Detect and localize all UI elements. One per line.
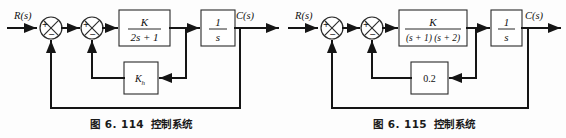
caption-title: 控制系统 (151, 118, 193, 130)
figure-6-114: R(s) + − + − (0, 0, 283, 138)
sum1-bottom-sign: − (329, 30, 336, 39)
summing-junction-2: + − (361, 17, 383, 39)
input-label: R(s) (294, 10, 313, 22)
integrator-denominator: s (216, 31, 220, 43)
figure-caption-6-115: 图 6. 115控制系统 (283, 116, 566, 131)
summing-junction-1: + − (40, 17, 62, 39)
block-diagram-6-115: R(s) + − + − (283, 0, 566, 118)
figure-6-115: R(s) + − + − (283, 0, 566, 138)
summing-junction-2: + − (81, 17, 103, 39)
sum2-left-sign: + (83, 20, 90, 29)
sum2-left-sign: + (363, 20, 370, 29)
feedback-gain-block[interactable]: Kh (124, 62, 158, 94)
integrator-numerator: 1 (504, 16, 510, 28)
summing-junction-1: + − (321, 17, 343, 39)
integrator-block[interactable]: 1 s (201, 10, 235, 46)
sum1-left-sign: + (323, 20, 330, 29)
forward-numerator: K (428, 16, 437, 28)
forward-numerator: K (140, 16, 149, 28)
forward-denominator: (s + 1) (s + 2) (406, 33, 460, 44)
input-label: R(s) (13, 10, 32, 22)
sum2-bottom-sign: − (89, 30, 96, 39)
integrator-numerator: 1 (215, 16, 221, 28)
forward-block[interactable]: K 2s + 1 (119, 10, 170, 46)
sum2-bottom-sign: − (369, 30, 376, 39)
output-label: C(s) (236, 10, 255, 22)
block-diagram-6-114: R(s) + − + − (0, 0, 283, 118)
caption-number: 图 6. 114 (90, 118, 144, 130)
output-label: C(s) (525, 10, 544, 22)
integrator-block[interactable]: 1 s (491, 10, 522, 46)
caption-title: 控制系统 (434, 118, 476, 130)
forward-denominator: 2s + 1 (130, 31, 158, 43)
feedback-gain-label: 0.2 (423, 73, 436, 84)
scanned-page: R(s) + − + − (0, 0, 566, 138)
integrator-denominator: s (504, 31, 508, 43)
forward-block[interactable]: K (s + 1) (s + 2) (399, 10, 467, 46)
caption-number: 图 6. 115 (373, 118, 427, 130)
sum1-left-sign: + (42, 20, 49, 29)
figure-caption-6-114: 图 6. 114控制系统 (0, 116, 283, 131)
sum1-bottom-sign: − (48, 30, 55, 39)
feedback-gain-block[interactable]: 0.2 (411, 62, 448, 94)
